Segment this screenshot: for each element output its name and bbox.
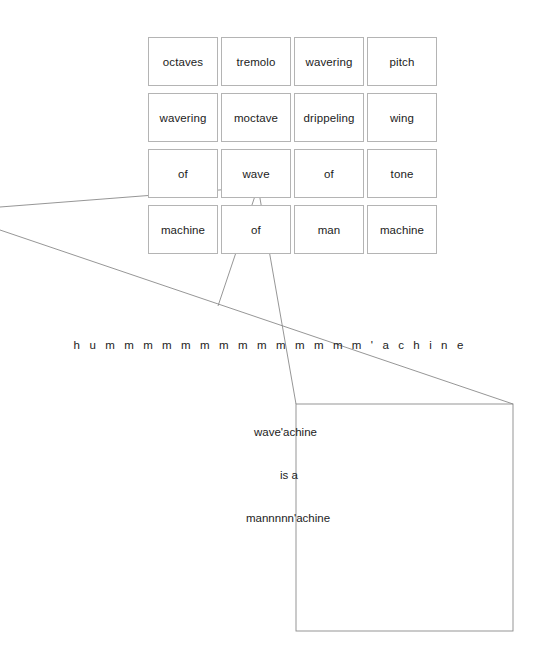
word-cell[interactable]: of	[221, 205, 291, 254]
word-cell[interactable]: wing	[367, 93, 437, 142]
hum-text-line: h u m m m m m m m m m m m m m m ' a c h …	[0, 339, 540, 351]
word-cell[interactable]: machine	[367, 205, 437, 254]
word-cell[interactable]: pitch	[367, 37, 437, 86]
stanza-line: wave'achine	[254, 426, 317, 438]
word-cell[interactable]: drippeling	[294, 93, 364, 142]
word-cell[interactable]: wavering	[148, 93, 218, 142]
lower-left-ray	[0, 230, 513, 404]
word-cell[interactable]: machine	[148, 205, 218, 254]
word-cell[interactable]: of	[294, 149, 364, 198]
word-cell[interactable]: wavering	[294, 37, 364, 86]
word-cell[interactable]: moctave	[221, 93, 291, 142]
word-cell[interactable]: tremolo	[221, 37, 291, 86]
word-cell[interactable]: man	[294, 205, 364, 254]
diagram-canvas: octaves tremolo wavering pitch wavering …	[0, 0, 540, 652]
word-cell[interactable]: octaves	[148, 37, 218, 86]
word-cell[interactable]: of	[148, 149, 218, 198]
word-cell[interactable]: tone	[367, 149, 437, 198]
word-grid: octaves tremolo wavering pitch wavering …	[148, 37, 437, 254]
stanza-line: mannnnn'achine	[246, 512, 330, 524]
stanza-line: is a	[280, 469, 298, 481]
word-cell[interactable]: wave	[221, 149, 291, 198]
